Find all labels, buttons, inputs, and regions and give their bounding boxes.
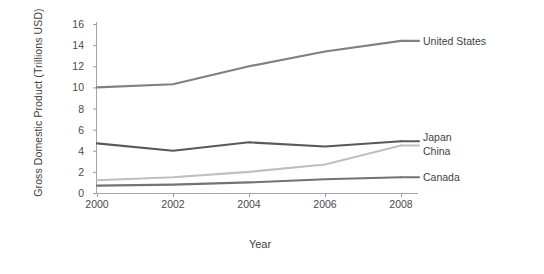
gdp-line-chart: Gross Domestic Product (Trillions USD) 0… [0,0,544,274]
x-tick-label: 2006 [303,198,347,210]
series-label-japan: Japan [423,131,452,143]
series-label-canada: Canada [423,171,460,183]
x-tick-label: 2002 [151,198,195,210]
x-tick-label: 2000 [75,198,119,210]
x-axis-title: Year [100,238,420,250]
series-label-china: China [423,145,450,157]
x-tick-label: 2008 [379,198,423,210]
series-label-united-states: United States [423,35,486,47]
x-tick-label: 2004 [227,198,271,210]
